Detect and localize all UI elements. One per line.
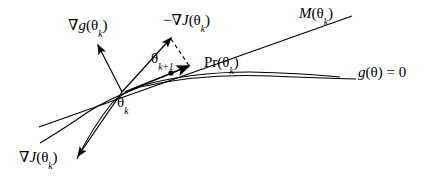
gradient-g-arg: (θ: [86, 17, 98, 33]
negative-gradient-j-close: ): [205, 12, 210, 28]
negative-gradient-j-label: −∇J(θk): [163, 13, 210, 28]
nabla-icon: ∇: [171, 12, 181, 28]
diagram-canvas: ∇g(θk) −∇J(θk) θk+1 Pr(θk) M(θk) g(θ) = …: [0, 0, 424, 180]
gradient-j-label: ∇J(θk): [19, 150, 58, 165]
gradient-j-subscript: k: [48, 161, 52, 171]
constraint-curve: [40, 75, 356, 143]
manifold-close: ): [328, 5, 333, 21]
nabla-icon: ∇: [68, 17, 78, 33]
next-iterate-label: θk+1: [151, 51, 174, 66]
projection-close: ): [234, 54, 239, 70]
next-iterate-subscript: k+1: [158, 62, 173, 72]
negative-gradient-j-arg: (θ: [189, 12, 201, 28]
gradient-g-label: ∇g(θk): [68, 18, 107, 33]
diagram-vectors: [0, 0, 424, 180]
projection-label: Pr(θk): [204, 55, 239, 70]
gradient-g-close: ): [102, 17, 107, 33]
tangent-manifold-label: M(θk): [299, 6, 333, 21]
constraint-equals: = 0: [383, 64, 406, 80]
gradient-g-arrow: [98, 45, 122, 92]
projection-subscript: k: [230, 66, 234, 76]
projection-symbol: Pr: [204, 54, 217, 70]
negative-gradient-j-symbol: J: [182, 12, 189, 28]
gradient-j-arrow: [78, 92, 122, 156]
constraint-curve-branch: [77, 72, 340, 159]
current-iterate-subscript: k: [124, 106, 128, 116]
nabla-icon: ∇: [19, 149, 29, 165]
gradient-g-symbol: g: [78, 17, 86, 33]
manifold-symbol: M: [299, 5, 312, 21]
constraint-label: g(θ) = 0: [358, 65, 406, 80]
current-iterate-label: θk: [117, 95, 128, 110]
gradient-j-arg: (θ: [36, 149, 48, 165]
negative-gradient-j-subscript: k: [201, 24, 205, 34]
gradient-j-close: ): [53, 149, 58, 165]
manifold-subscript: k: [324, 17, 328, 27]
manifold-arg: (θ: [312, 5, 324, 21]
projection-arg: (θ: [217, 54, 229, 70]
constraint-symbol: g: [358, 64, 366, 80]
constraint-arg: (θ): [366, 64, 383, 80]
gradient-g-subscript: k: [98, 29, 102, 39]
